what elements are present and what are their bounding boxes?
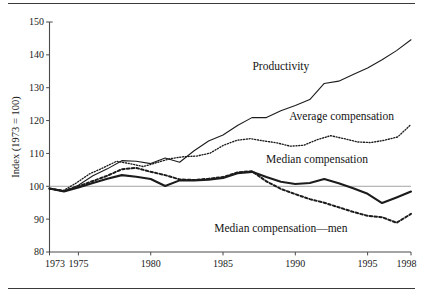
x-tick-label-1980: 1980 [141,258,161,269]
y-tick-label-90: 90 [34,214,44,225]
y-tick-label-130: 130 [29,82,44,93]
y-tick-label-120: 120 [29,115,44,126]
axes-group [46,22,411,255]
y-axis-title: Index (1973 = 100) [10,96,22,178]
x-tick-label-1998: 1998 [397,258,417,269]
y-tick-label-110: 110 [29,148,44,159]
series-annotation-group: ProductivityAverage compensationMedian c… [214,60,394,235]
y-tick-label-80: 80 [34,246,44,257]
label-average-compensation: Average compensation [289,110,394,123]
y-tick-label-100: 100 [29,181,44,192]
label-median-compensation: Median compensation [266,153,368,166]
figure-container: 8090100110120130140150197319751980198519… [0,0,423,295]
x-tick-label-1975: 1975 [68,258,88,269]
x-tick-label-1995: 1995 [358,258,378,269]
y-tick-label-150: 150 [29,16,44,27]
x-tick-label-1973: 1973 [45,258,65,269]
series-group [50,40,412,223]
y-axis-title-group: Index (1973 = 100) [10,96,22,178]
x-tick-label-1985: 1985 [213,258,233,269]
x-tick-label-1990: 1990 [285,258,305,269]
y-tick-label-140: 140 [29,49,44,60]
line-chart: 8090100110120130140150197319751980198519… [0,0,423,295]
label-productivity: Productivity [252,60,309,73]
label-median-compensation-men: Median compensation—men [214,222,347,235]
